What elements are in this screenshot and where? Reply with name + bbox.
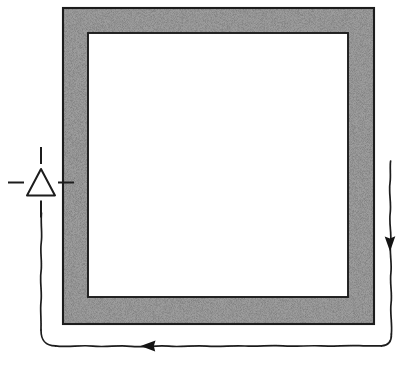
stippled-square-frame — [55, 0, 385, 340]
left-wire — [41, 213, 42, 330]
frame-interior — [89, 34, 347, 296]
bottom-wire — [56, 346, 382, 347]
right-wire-arrowhead — [385, 236, 396, 251]
figure-root — [0, 0, 409, 369]
bottom-left-corner — [41, 330, 56, 346]
technical-diagram-svg — [0, 0, 409, 369]
triangle-up-icon — [27, 169, 55, 195]
bottom-wire-arrowhead — [141, 340, 156, 351]
